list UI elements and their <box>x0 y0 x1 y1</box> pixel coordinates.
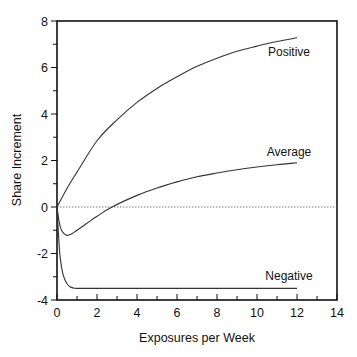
plot-border <box>57 21 337 300</box>
y-tick-label: -4 <box>37 294 48 308</box>
x-tick-label: 6 <box>174 306 181 320</box>
x-tick-label: 10 <box>250 306 264 320</box>
series-label-positive: Positive <box>268 45 310 59</box>
x-axis-label: Exposures per Week <box>139 331 256 345</box>
y-tick-label: -2 <box>37 247 48 261</box>
y-tick-label: 0 <box>41 201 48 215</box>
x-tick-label: 0 <box>54 306 61 320</box>
x-tick-label: 12 <box>290 306 304 320</box>
line-chart: 02468101214 86420-2-4 PositiveAverageNeg… <box>0 0 357 357</box>
y-tick-label: 8 <box>41 15 48 29</box>
series-average <box>57 163 297 236</box>
x-tick-label: 14 <box>330 306 344 320</box>
plot-frame <box>57 21 337 300</box>
y-axis-tick-labels: 86420-2-4 <box>37 15 48 308</box>
y-tick-label: 4 <box>41 108 48 122</box>
series-lines <box>57 38 297 289</box>
y-axis-label: Share Increment <box>10 113 24 206</box>
x-axis-tick-labels: 02468101214 <box>54 306 344 320</box>
axis-ticks <box>51 21 337 300</box>
series-label-negative: Negative <box>265 269 313 283</box>
y-tick-label: 2 <box>41 154 48 168</box>
y-tick-label: 6 <box>41 61 48 75</box>
series-label-average: Average <box>267 145 312 159</box>
x-tick-label: 4 <box>134 306 141 320</box>
x-tick-label: 2 <box>94 306 101 320</box>
x-tick-label: 8 <box>214 306 221 320</box>
